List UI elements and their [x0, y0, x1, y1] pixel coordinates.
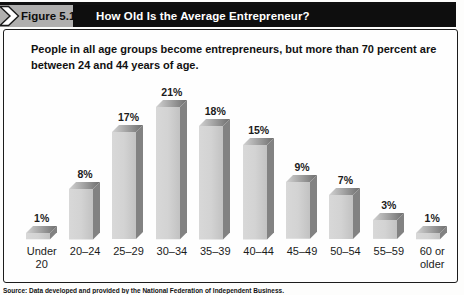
bar-group: 21%30–34 — [150, 82, 193, 270]
bar-area: 18% — [199, 82, 231, 240]
figure-title-bar: How Old Is the Average Entrepreneur? — [73, 5, 456, 27]
bar-group: 7%50–54 — [324, 82, 367, 270]
bar-value-label: 15% — [248, 124, 269, 136]
bar-area: 8% — [69, 82, 101, 240]
bar — [329, 188, 361, 240]
bar — [112, 125, 144, 240]
category-label: 30–34 — [157, 245, 188, 258]
chevron-right-icon — [0, 5, 20, 27]
bar — [416, 226, 448, 240]
bar — [199, 119, 231, 240]
bar-group: 17%25–29 — [107, 82, 150, 270]
source-note: Source: Data developed and provided by t… — [3, 287, 461, 294]
bar-area: 1% — [416, 82, 448, 240]
bar-value-label: 17% — [118, 111, 139, 123]
bar-group: 18%35–39 — [194, 82, 237, 270]
bar-value-label: 1% — [425, 212, 440, 224]
bar-group: 1%Under 20 — [20, 82, 63, 270]
figure-number: Figure 5.1 — [21, 10, 75, 22]
chart-subtitle: People in all age groups become entrepre… — [31, 42, 443, 74]
bar — [69, 182, 101, 240]
bar-chart: 1%Under 208%20–2417%25–2921%30–3418%35–3… — [20, 82, 454, 270]
figure-page: Figure 5.1 How Old Is the Average Entrep… — [0, 0, 464, 295]
bar-value-label: 21% — [161, 86, 182, 98]
bar-group: 15%40–44 — [237, 82, 280, 270]
category-label: 40–44 — [243, 245, 274, 258]
bar-value-label: 9% — [294, 161, 309, 173]
figure-title: How Old Is the Average Entrepreneur? — [73, 10, 310, 22]
chart-box: People in all age groups become entrepre… — [3, 29, 458, 283]
bar-area: 15% — [243, 82, 275, 240]
bar-value-label: 7% — [338, 174, 353, 186]
bar — [156, 100, 188, 240]
bar-area: 17% — [112, 82, 144, 240]
category-label: 55–59 — [374, 245, 405, 258]
bar-group: 9%45–49 — [280, 82, 323, 270]
bar — [26, 226, 58, 240]
bar-area: 7% — [329, 82, 361, 240]
figure-header: Figure 5.1 How Old Is the Average Entrep… — [0, 2, 456, 27]
bar-value-label: 3% — [381, 199, 396, 211]
bar-area: 3% — [373, 82, 405, 240]
bar — [286, 175, 318, 240]
category-label: Under 20 — [20, 245, 63, 270]
bar-area: 9% — [286, 82, 318, 240]
category-label: 25–29 — [113, 245, 144, 258]
category-label: 35–39 — [200, 245, 231, 258]
bar — [373, 213, 405, 240]
bar-value-label: 18% — [205, 105, 226, 117]
bar-area: 1% — [26, 82, 58, 240]
category-label: 45–49 — [287, 245, 318, 258]
bar-group: 3%55–59 — [367, 82, 410, 270]
figure-label-band: Figure 5.1 — [0, 5, 73, 27]
bar-group: 8%20–24 — [63, 82, 106, 270]
bar-value-label: 1% — [34, 212, 49, 224]
bar-value-label: 8% — [77, 168, 92, 180]
bar-area: 21% — [156, 82, 188, 240]
category-label: 20–24 — [70, 245, 101, 258]
bar — [243, 138, 275, 241]
category-label: 50–54 — [330, 245, 361, 258]
category-label: 60 or older — [411, 245, 454, 270]
bar-group: 1%60 or older — [411, 82, 454, 270]
